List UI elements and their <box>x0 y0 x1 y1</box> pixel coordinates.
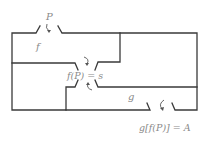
label-room-f: f <box>36 42 40 52</box>
middle-arrow-bottom-icon <box>86 82 92 90</box>
outer-wall-top-left <box>12 26 78 110</box>
label-entry-p: P <box>46 12 53 22</box>
wall-g-bottom <box>66 103 150 110</box>
entry-arrow-icon <box>46 24 51 33</box>
middle-arrow-top-icon <box>84 57 89 66</box>
wall-inner-room <box>95 33 120 70</box>
label-room-g: g <box>128 92 134 102</box>
exit-arrow-icon <box>160 100 164 111</box>
label-middle-door: f(P) = s <box>67 71 103 81</box>
label-exit: g[f(P)] = A <box>139 123 191 133</box>
wall-f-lower <box>12 63 78 70</box>
wall-g-top <box>95 80 197 87</box>
